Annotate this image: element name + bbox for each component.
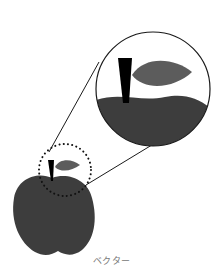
apple-body <box>13 175 95 254</box>
magnified-view <box>90 30 220 150</box>
apple-leaf <box>55 160 80 170</box>
connector-line-left <box>49 62 99 152</box>
magnified-apple-top <box>96 96 215 150</box>
caption-label: ベクター <box>0 254 223 267</box>
vector-apple-illustration <box>0 0 223 277</box>
